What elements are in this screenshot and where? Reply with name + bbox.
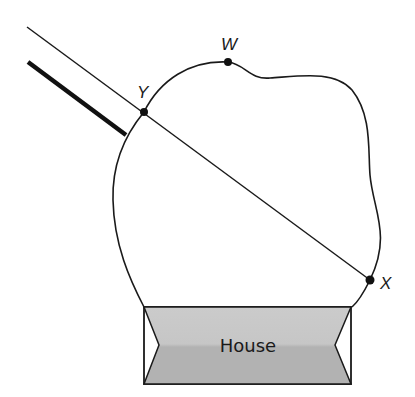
label-X: X: [379, 274, 392, 293]
region-boundary-curve: [144, 62, 380, 307]
thick-line: [28, 62, 126, 135]
diagram-canvas: House W Y X: [0, 0, 415, 397]
house-label: House: [220, 335, 276, 356]
label-W: W: [221, 35, 239, 54]
house: House: [144, 307, 351, 384]
point-X: [366, 276, 375, 285]
point-W: [224, 58, 232, 66]
region-boundary-left: [113, 112, 144, 307]
point-Y: [140, 108, 148, 116]
label-Y: Y: [137, 83, 150, 102]
